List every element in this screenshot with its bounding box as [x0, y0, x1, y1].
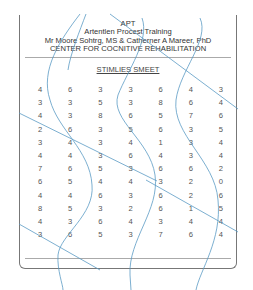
grid-cell: 4	[25, 85, 55, 94]
grid-row: 3 3 5 3 8 6 4	[20, 96, 236, 109]
grid-cell: 2	[115, 204, 145, 213]
grid-cell: 3	[25, 230, 55, 239]
grid-cell: 6	[25, 177, 55, 186]
grid-cell: 5	[85, 230, 115, 239]
grid-cell: 4	[206, 230, 236, 239]
grid-cell: 6	[206, 191, 236, 200]
grid-cell: 1	[146, 138, 176, 147]
grid-row: 4 3 8 6 5 7 6	[20, 109, 236, 122]
grid-cell: 5	[55, 204, 85, 213]
grid-cell: 6	[146, 204, 176, 213]
grid-row: 8 5 3 2 6 1 5	[20, 202, 236, 215]
grid-cell: 4	[25, 217, 55, 226]
grid-cell: 3	[25, 138, 55, 147]
grid-row: 4 4 6 3 6 2 6	[20, 189, 236, 202]
grid-cell: 8	[25, 204, 55, 213]
header-divider	[25, 57, 231, 58]
grid-row: 6 5 4 4 3 2 0	[20, 175, 236, 188]
grid-cell: 3	[115, 85, 145, 94]
grid-cell: 3	[85, 151, 115, 160]
grid-row: 4 4 3 6 4 3 4	[20, 149, 236, 162]
grid-cell: 5	[206, 204, 236, 213]
header-organization: CENTER FOR COCNITIVE REHABILITATION	[20, 45, 236, 53]
grid-cell: 4	[25, 191, 55, 200]
grid-cell: 6	[176, 164, 206, 173]
grid-cell: 5	[206, 125, 236, 134]
grid-cell: 5	[85, 98, 115, 107]
grid-cell: 3	[115, 98, 145, 107]
grid-cell: 4	[206, 98, 236, 107]
grid-cell: 4	[55, 138, 85, 147]
grid-cell: 4	[115, 217, 145, 226]
grid-cell: 6	[146, 85, 176, 94]
stimulus-sheet-card: APT Artentlen Procest Tralning Mr Moore …	[19, 15, 237, 269]
grid-cell: 4	[176, 217, 206, 226]
grid-cell: 5	[55, 177, 85, 186]
grid-cell: 6	[115, 111, 145, 120]
grid-cell: 4	[206, 151, 236, 160]
grid-cell: 8	[146, 98, 176, 107]
grid-cell: 3	[176, 125, 206, 134]
grid-cell: 3	[176, 138, 206, 147]
grid-row: 3 6 5 3 7 6 4	[20, 228, 236, 241]
grid-cell: 3	[85, 125, 115, 134]
sheet-subtitle: STIMLIES SMEET	[20, 65, 236, 74]
grid-cell: 3	[85, 85, 115, 94]
grid-cell: 4	[55, 151, 85, 160]
grid-cell: 2	[176, 177, 206, 186]
grid-cell: 6	[55, 125, 85, 134]
grid-cell: 3	[206, 85, 236, 94]
grid-cell: 4	[25, 151, 55, 160]
grid-cell: 0	[206, 177, 236, 186]
grid-cell: 6	[176, 230, 206, 239]
grid-cell: 6	[115, 151, 145, 160]
grid-cell: 1	[176, 204, 206, 213]
grid-cell: 2	[176, 191, 206, 200]
grid-cell: 4	[115, 177, 145, 186]
grid-cell: 8	[85, 111, 115, 120]
grid-cell: 3	[85, 204, 115, 213]
grid-cell: 5	[85, 164, 115, 173]
grid-cell: 3	[146, 177, 176, 186]
sheet-header: APT Artentlen Procest Tralning Mr Moore …	[20, 20, 236, 53]
grid-cell: 4	[206, 138, 236, 147]
grid-cell: 4	[206, 217, 236, 226]
grid-row: 4 6 3 3 6 4 3	[20, 83, 236, 96]
grid-cell: 6	[55, 85, 85, 94]
grid-cell: 3	[25, 98, 55, 107]
grid-cell: 4	[25, 111, 55, 120]
grid-cell: 3	[55, 98, 85, 107]
grid-cell: 6	[146, 191, 176, 200]
grid-cell: 4	[55, 191, 85, 200]
grid-cell: 4	[176, 85, 206, 94]
grid-cell: 6	[85, 191, 115, 200]
grid-cell: 6	[55, 230, 85, 239]
grid-cell: 6	[176, 98, 206, 107]
grid-cell: 3	[55, 111, 85, 120]
grid-cell: 3	[176, 151, 206, 160]
grid-cell: 3	[115, 191, 145, 200]
grid-cell: 6	[146, 125, 176, 134]
grid-cell: 2	[206, 164, 236, 173]
grid-cell: 5	[115, 125, 145, 134]
grid-cell: 3	[115, 230, 145, 239]
grid-cell: 3	[55, 217, 85, 226]
grid-cell: 2	[25, 125, 55, 134]
grid-cell: 6	[206, 111, 236, 120]
number-grid: 4 6 3 3 6 4 3 3 3 5 3 8 6 4 4 3 8 6 5 7 …	[20, 83, 236, 241]
grid-cell: 3	[115, 164, 145, 173]
grid-row: 7 6 5 3 6 6 2	[20, 162, 236, 175]
grid-cell: 4	[115, 138, 145, 147]
grid-cell: 4	[85, 177, 115, 186]
grid-cell: 3	[146, 217, 176, 226]
grid-cell: 6	[85, 217, 115, 226]
grid-cell: 3	[85, 138, 115, 147]
grid-cell: 6	[146, 164, 176, 173]
grid-row: 4 3 6 4 3 4 4	[20, 215, 236, 228]
grid-cell: 6	[55, 164, 85, 173]
footer-divider	[25, 258, 231, 259]
grid-row: 3 4 3 4 1 3 4	[20, 136, 236, 149]
grid-cell: 7	[176, 111, 206, 120]
grid-cell: 7	[146, 230, 176, 239]
grid-cell: 4	[146, 151, 176, 160]
